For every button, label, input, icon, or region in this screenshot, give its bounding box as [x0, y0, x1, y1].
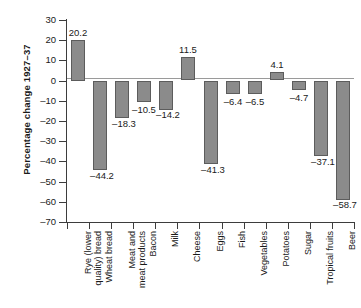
bar — [71, 40, 85, 81]
bar-value-label: –44.2 — [79, 171, 125, 181]
bar — [336, 81, 350, 200]
x-tick-3 — [133, 222, 134, 229]
y-tick-5 — [59, 121, 67, 122]
bar-value-label: –4.7 — [276, 93, 322, 103]
bar — [270, 72, 284, 80]
x-tick-2 — [111, 222, 112, 229]
bar — [137, 81, 151, 102]
y-tick-10 — [59, 222, 67, 223]
x-tick-5 — [177, 222, 178, 229]
y-tick-label-5: –20 — [16, 116, 56, 126]
x-tick-11 — [310, 222, 311, 229]
category-label: Beer — [347, 231, 357, 305]
bar — [204, 81, 218, 164]
x-tick-last — [354, 222, 355, 229]
y-tick-label-6: –30 — [16, 136, 56, 146]
x-tick-7 — [222, 222, 223, 229]
y-tick-label-10: –70 — [16, 217, 56, 227]
x-tick-8 — [244, 222, 245, 229]
category-label-line: Cheese — [192, 231, 202, 305]
category-label-line: Eggs — [215, 231, 225, 305]
category-label-line: Fish — [237, 231, 247, 305]
category-label-line: meat products — [137, 231, 147, 305]
bar-value-label: 20.2 — [55, 28, 101, 38]
bar — [226, 81, 240, 94]
bar-value-label: 4.1 — [254, 60, 300, 70]
y-tick-label-1: 20 — [16, 35, 56, 45]
category-label: Meat andmeat products — [127, 231, 147, 305]
y-tick-1 — [59, 40, 67, 41]
y-tick-4 — [59, 101, 67, 102]
bar — [292, 81, 306, 90]
category-label: Eggs — [215, 231, 225, 305]
category-label-line: quality) bread — [93, 231, 103, 305]
category-label-line: Beer — [347, 231, 357, 305]
bar-value-label: –6.5 — [232, 97, 278, 107]
bar-chart: Percentage change 1927–37 3020100–10–20–… — [0, 0, 361, 308]
y-tick-6 — [59, 141, 67, 142]
bar-value-label: –14.2 — [145, 110, 191, 120]
x-tick-6 — [199, 222, 200, 229]
y-tick-3 — [59, 81, 67, 82]
y-tick-label-4: –10 — [16, 96, 56, 106]
zero-baseline — [67, 78, 354, 79]
y-tick-label-7: –40 — [16, 156, 56, 166]
category-label-line: Tropical fruits — [325, 231, 335, 305]
bar-value-label: –41.3 — [190, 165, 236, 175]
x-tick-10 — [288, 222, 289, 229]
category-label-line: Meat and — [127, 231, 137, 305]
category-label-line: Vegetables — [259, 231, 269, 305]
y-tick-2 — [59, 60, 67, 61]
bar-value-label: –37.1 — [300, 157, 346, 167]
category-label: Fish — [237, 231, 247, 305]
category-label: Vegetables — [259, 231, 269, 305]
category-label: Tropical fruits — [325, 231, 335, 305]
category-label-line: Rye (lower — [83, 231, 93, 305]
x-tick-9 — [266, 222, 267, 229]
x-tick-1 — [89, 222, 90, 229]
y-tick-0 — [59, 20, 67, 21]
category-label-line: Potatoes — [281, 231, 291, 305]
y-tick-label-8: –50 — [16, 177, 56, 187]
y-tick-label-0: 30 — [16, 15, 56, 25]
y-tick-9 — [59, 202, 67, 203]
y-tick-label-2: 10 — [16, 55, 56, 65]
y-tick-label-3: 0 — [16, 76, 56, 86]
bar-value-label: –18.3 — [101, 119, 147, 129]
category-label: Potatoes — [281, 231, 291, 305]
category-label: Milk — [170, 231, 180, 305]
category-label-line: Milk — [170, 231, 180, 305]
y-tick-7 — [59, 161, 67, 162]
category-label-line: Bacon — [148, 231, 158, 305]
category-label: Rye (lowerquality) bread — [83, 231, 103, 305]
category-label: Cheese — [192, 231, 202, 305]
y-tick-label-9: –60 — [16, 197, 56, 207]
category-label: Wheat bread — [104, 231, 114, 305]
x-tick-4 — [155, 222, 156, 229]
category-label: Sugar — [303, 231, 313, 305]
category-label-line: Wheat bread — [104, 231, 114, 305]
x-tick-12 — [332, 222, 333, 229]
x-tick-0 — [67, 222, 68, 229]
bar — [181, 57, 195, 80]
category-label: Bacon — [148, 231, 158, 305]
category-label-line: Sugar — [303, 231, 313, 305]
bar-value-label: 11.5 — [165, 45, 211, 55]
bar — [248, 81, 262, 94]
bar-value-label: –58.7 — [322, 200, 361, 210]
y-tick-8 — [59, 182, 67, 183]
